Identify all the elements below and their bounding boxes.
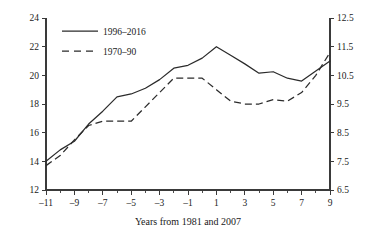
chart-container: 121416182022246.57.58.59.510.511.512.5–1…: [0, 0, 383, 239]
y-axis-left-tick-label: 18: [30, 99, 40, 109]
x-axis-tick-label: 9: [328, 198, 333, 208]
x-axis-tick-label: 1: [214, 198, 219, 208]
y-axis-left-tick-label: 20: [30, 71, 40, 81]
x-axis-tick-label: –9: [69, 198, 80, 208]
y-axis-right-tick-label: 8.5: [337, 128, 349, 138]
x-axis-tick-label: 3: [242, 198, 247, 208]
x-axis-tick-label: 7: [299, 198, 304, 208]
y-axis-right-tick-label: 10.5: [337, 71, 354, 81]
y-axis-left-tick-label: 14: [30, 157, 40, 167]
x-axis-tick-label: –7: [97, 198, 108, 208]
y-axis-right-tick-label: 12.5: [337, 13, 354, 23]
x-axis-tick-label: –11: [38, 198, 53, 208]
series-line-2: [46, 52, 330, 165]
x-axis-tick-label: 5: [271, 198, 276, 208]
y-axis-right-tick-label: 6.5: [337, 185, 349, 195]
y-axis-right-tick-label: 9.5: [337, 99, 349, 109]
legend-label-1: 1996–2016: [103, 27, 146, 37]
y-axis-left-tick-label: 24: [30, 13, 40, 23]
series-line-1: [46, 47, 330, 162]
legend-label-2: 1970–90: [103, 47, 137, 57]
x-axis-tick-label: –5: [125, 198, 136, 208]
y-axis-left-tick-label: 22: [30, 42, 40, 52]
line-chart: 121416182022246.57.58.59.510.511.512.5–1…: [0, 0, 383, 239]
y-axis-right-tick-label: 7.5: [337, 157, 349, 167]
y-axis-left-tick-label: 12: [30, 185, 40, 195]
x-axis-tick-label: –3: [154, 198, 165, 208]
y-axis-right-tick-label: 11.5: [337, 42, 354, 52]
y-axis-left-tick-label: 16: [30, 128, 40, 138]
x-axis-tick-label: –1: [182, 198, 193, 208]
x-axis-title: Years from 1981 and 2007: [135, 216, 241, 227]
